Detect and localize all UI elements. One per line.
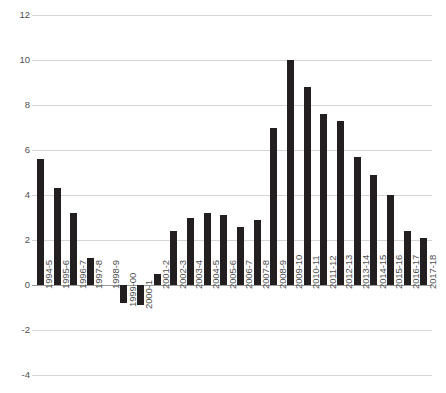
x-tick-label: 2000-1 <box>144 280 154 309</box>
x-axis-tick-labels: 1994-51995-61996-71997-81998-91999-00200… <box>32 0 432 393</box>
x-tick-label: 2017-18 <box>428 255 438 289</box>
y-axis-tick-labels: 121086420-2-4 <box>0 15 30 375</box>
x-tick-label: 2010-11 <box>311 256 321 289</box>
x-tick-label: 2011-12 <box>328 256 338 289</box>
x-tick-label: 2013-14 <box>361 255 371 289</box>
x-tick-label: 1995-6 <box>61 260 71 289</box>
x-tick-label: 2008-9 <box>278 260 288 289</box>
y-tick-label: 12 <box>4 10 30 20</box>
y-tick-label: 0 <box>4 280 30 290</box>
y-tick-label: -4 <box>4 370 30 380</box>
x-tick-label: 2015-16 <box>394 255 404 289</box>
x-tick-label: 2003-4 <box>194 260 204 289</box>
x-tick-label: 2012-13 <box>344 255 354 289</box>
x-tick-label: 2009-10 <box>294 255 304 289</box>
x-tick-label: 2005-6 <box>228 260 238 289</box>
x-tick-label: 1997-8 <box>94 260 104 289</box>
x-tick-label: 2004-5 <box>211 260 221 289</box>
x-tick-label: 2016-17 <box>411 255 421 289</box>
x-tick-label: 2014-15 <box>378 255 388 289</box>
y-tick-label: 4 <box>4 190 30 200</box>
x-tick-label: 2002-3 <box>178 260 188 289</box>
y-tick-label: 6 <box>4 145 30 155</box>
x-tick-label: 2006-7 <box>244 260 254 289</box>
x-tick-label: 1998-9 <box>111 260 121 289</box>
y-tick-label: 10 <box>4 55 30 65</box>
x-tick-label: 1994-5 <box>44 260 54 289</box>
x-tick-label: 1999-00 <box>128 273 138 307</box>
x-tick-label: 2007-8 <box>261 260 271 289</box>
y-tick-label: 2 <box>4 235 30 245</box>
y-tick-label: -2 <box>4 325 30 335</box>
y-tick-label: 8 <box>4 100 30 110</box>
x-tick-label: 2001-2 <box>161 260 171 289</box>
bar-chart: 121086420-2-4 1994-51995-61996-71997-819… <box>0 0 446 393</box>
x-tick-label: 1996-7 <box>78 260 88 289</box>
